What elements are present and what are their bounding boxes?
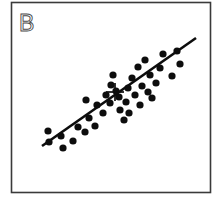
data-point [82, 96, 89, 103]
data-point [144, 88, 151, 95]
data-point [131, 91, 138, 98]
figure-panel-b: B [0, 0, 223, 203]
data-point [120, 116, 127, 123]
data-point [134, 63, 141, 70]
data-point [168, 72, 175, 79]
data-point [136, 101, 143, 108]
data-point [176, 60, 183, 67]
data-point [44, 127, 51, 134]
data-point [159, 50, 166, 57]
scatter-plot-canvas: B [0, 0, 223, 203]
data-point [69, 137, 76, 144]
data-point [74, 123, 81, 130]
data-point [138, 82, 145, 89]
panel-label-b: B [19, 10, 34, 36]
data-point [107, 81, 114, 88]
data-point [99, 109, 106, 116]
data-point [152, 79, 159, 86]
data-point [141, 56, 148, 63]
data-point [109, 71, 116, 78]
data-point [122, 98, 129, 105]
data-point [148, 94, 155, 101]
data-point [116, 106, 123, 113]
data-point [91, 122, 98, 129]
data-point [81, 128, 88, 135]
data-point [59, 144, 66, 151]
data-point [125, 109, 132, 116]
